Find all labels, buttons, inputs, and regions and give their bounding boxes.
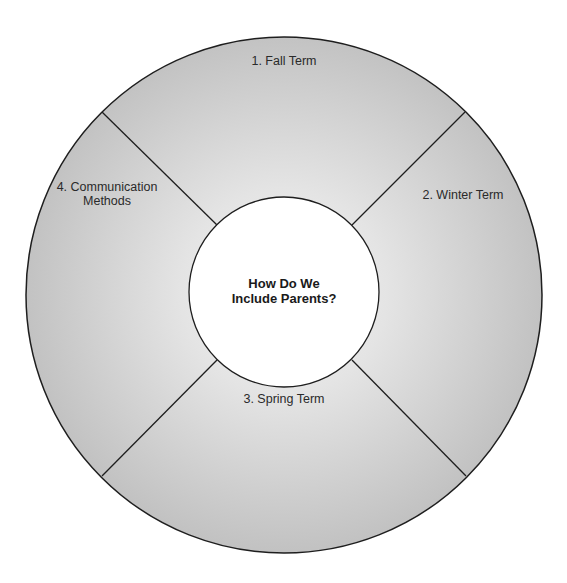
segment-label-spring-term: 3. Spring Term	[229, 392, 339, 406]
center-title: How Do We Include Parents?	[214, 276, 354, 306]
center-title-line2: Include Parents?	[214, 291, 354, 306]
segment-label-winter-term: 2. Winter Term	[408, 188, 518, 202]
segment-label-fall-term: 1. Fall Term	[234, 54, 334, 68]
segment-label-communication-methods: 4. Communication Methods	[52, 180, 162, 208]
center-title-line1: How Do We	[214, 276, 354, 291]
communication-line2: Methods	[52, 194, 162, 208]
communication-line1: 4. Communication	[52, 180, 162, 194]
